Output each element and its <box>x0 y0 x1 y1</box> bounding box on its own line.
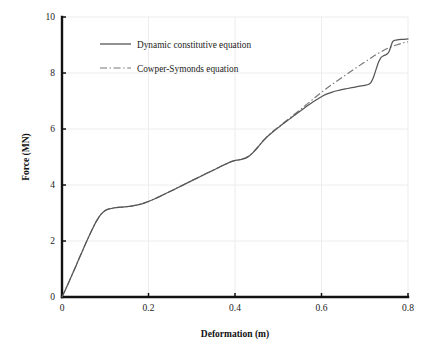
x-tick-label: 0.4 <box>229 303 241 313</box>
force-deformation-chart: 00.20.40.60.8 0246810 Deformation (m) Fo… <box>0 0 429 348</box>
y-tick-label: 4 <box>50 180 55 190</box>
y-axis-title: Force (MN) <box>21 133 32 181</box>
y-tick-label: 8 <box>50 68 55 78</box>
x-tick-label: 0.6 <box>316 303 328 313</box>
chart-svg: 00.20.40.60.8 0246810 Deformation (m) Fo… <box>0 0 429 348</box>
y-tick-label: 10 <box>46 12 56 22</box>
x-tick-label: 0.2 <box>143 303 155 313</box>
legend-label-cowper-symonds: Cowper-Symonds equation <box>137 64 239 74</box>
y-tick-label: 2 <box>50 236 55 246</box>
y-tick-label: 6 <box>50 124 55 134</box>
x-tick-label: 0 <box>60 303 65 313</box>
legend-label-dynamic-constitutive: Dynamic constitutive equation <box>137 40 251 50</box>
y-tick-label: 0 <box>50 292 55 302</box>
x-tick-label: 0.8 <box>402 303 414 313</box>
x-axis-title: Deformation (m) <box>201 329 269 340</box>
